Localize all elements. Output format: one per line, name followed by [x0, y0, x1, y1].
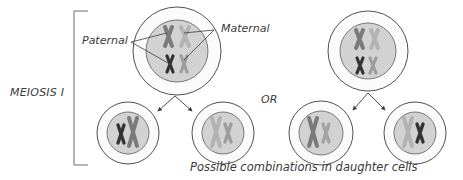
parent-cell-right [328, 11, 408, 91]
division-arrows-left [158, 96, 192, 111]
division-arrows-right [353, 93, 385, 110]
daughter-cell-1 [97, 102, 159, 164]
maternal-label: Maternal [221, 22, 270, 35]
caption: Possible combinations in daughter cells [190, 160, 418, 174]
daughter-cell-4 [384, 102, 446, 164]
meiosis-stage-label: MEIOSIS I [10, 86, 64, 99]
daughter-cell-2 [192, 102, 254, 164]
paternal-label: Paternal [82, 34, 128, 47]
daughter-cell-3 [289, 101, 353, 165]
nucleus [146, 20, 208, 82]
meiosis-diagram: MEIOSIS I Paternal Maternal OR Possible … [0, 0, 463, 180]
nucleus [340, 23, 396, 79]
or-label: OR [261, 93, 277, 106]
